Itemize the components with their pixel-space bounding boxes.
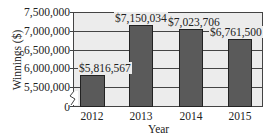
y-tick-mark bbox=[70, 50, 74, 51]
y-tick-label: 7,500,000 bbox=[24, 6, 70, 18]
bar-2015 bbox=[228, 39, 252, 107]
y-tick-mark bbox=[70, 31, 74, 32]
x-axis-title: Year bbox=[148, 123, 169, 135]
x-tick-label: 2013 bbox=[121, 110, 161, 122]
bar-2012 bbox=[80, 75, 105, 107]
y-axis-title: Winnings ($) bbox=[11, 25, 23, 95]
bar-2013 bbox=[129, 25, 153, 107]
y-tick-mark bbox=[70, 87, 74, 88]
bar-label-2015: $6,761,500 bbox=[209, 26, 263, 38]
bar-label-2013: $7,150,034 bbox=[114, 12, 168, 24]
y-tick-mark bbox=[70, 106, 74, 107]
x-tick-label: 2012 bbox=[72, 110, 112, 122]
y-tick-label: 6,500,000 bbox=[24, 44, 70, 56]
bar-2014 bbox=[179, 29, 203, 107]
x-tick-label: 2014 bbox=[171, 110, 211, 122]
bar-chart: 7,500,000 7,000,000 6,500,000 6,000,000 … bbox=[0, 0, 266, 136]
x-tick-label: 2015 bbox=[220, 110, 260, 122]
y-tick-label: 6,000,000 bbox=[24, 62, 70, 74]
y-tick-label: 7,000,000 bbox=[24, 25, 70, 37]
bar-label-2012: $5,816,567 bbox=[78, 62, 132, 74]
axis-break-icon bbox=[68, 91, 78, 105]
y-tick-mark bbox=[70, 12, 74, 13]
y-tick-label: 5,500,000 bbox=[24, 81, 70, 93]
y-tick-mark bbox=[70, 68, 74, 69]
